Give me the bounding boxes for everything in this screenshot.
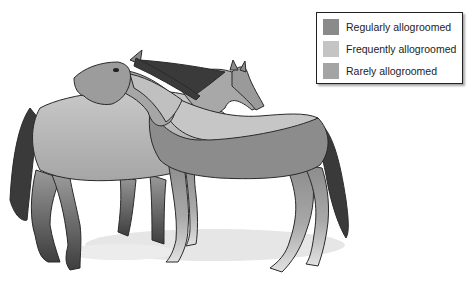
legend: Regularly allogroomed Frequently allogro… — [316, 12, 463, 84]
legend-item-rarely: Rarely allogroomed — [323, 60, 462, 82]
legend-item-frequently: Frequently allogroomed — [323, 38, 462, 60]
swatch-frequently — [323, 41, 339, 57]
legend-item-regularly: Regularly allogroomed — [323, 16, 462, 38]
swatch-regularly — [323, 19, 339, 35]
legend-label: Rarely allogroomed — [346, 65, 437, 77]
swatch-rarely — [323, 63, 339, 79]
legend-label: Frequently allogroomed — [346, 43, 456, 55]
legend-label: Regularly allogroomed — [346, 21, 451, 33]
